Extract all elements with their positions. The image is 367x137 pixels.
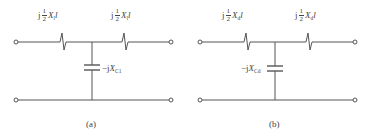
- circuit-panel-b: j12Xdl j12Xdl −jXCd (b): [184, 0, 367, 137]
- terminal-bottom-left: [198, 98, 202, 102]
- terminal-top-left: [198, 40, 202, 44]
- inductor-left-icon: [55, 33, 72, 50]
- t-network-schematic-b: [184, 0, 367, 137]
- terminal-bottom-left: [14, 98, 18, 102]
- inductor-right-icon: [301, 33, 318, 50]
- circuit-panel-a: j12Xll j12Xll −jXC1 (a): [0, 0, 184, 137]
- series-reactance-left-label: j12Xll: [38, 8, 58, 23]
- shunt-reactance-label: −jXCd: [241, 64, 261, 75]
- series-reactance-right-label: j12Xll: [111, 8, 131, 23]
- terminal-bottom-right: [169, 98, 173, 102]
- panel-caption: (b): [269, 119, 280, 129]
- series-reactance-right-label: j12Xdl: [295, 8, 316, 23]
- terminal-top-right: [353, 40, 357, 44]
- inductor-right-icon: [117, 33, 134, 50]
- terminal-bottom-right: [353, 98, 357, 102]
- t-network-schematic-a: [0, 0, 184, 137]
- series-reactance-left-label: j12Xdl: [222, 8, 243, 23]
- terminal-top-left: [14, 40, 18, 44]
- inductor-left-icon: [239, 33, 256, 50]
- shunt-reactance-label: −jXC1: [102, 64, 122, 75]
- terminal-top-right: [169, 40, 173, 44]
- panel-caption: (a): [86, 119, 96, 129]
